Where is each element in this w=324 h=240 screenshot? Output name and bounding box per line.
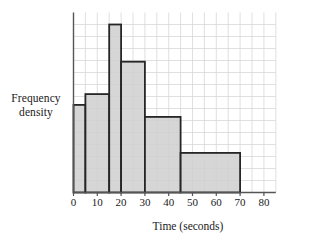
- x-axis-tick-label: 40: [157, 196, 181, 208]
- histogram-bar: [109, 25, 121, 193]
- y-axis-title-line-2: density: [2, 106, 70, 120]
- x-axis-tick-label: 80: [252, 196, 276, 208]
- histogram-bar: [85, 94, 109, 192]
- x-axis-tick-label: 60: [204, 196, 228, 208]
- histogram-bar: [181, 153, 241, 193]
- histogram-bar: [145, 117, 181, 193]
- x-axis-tick-label: 0: [62, 196, 86, 208]
- x-axis-tick-label: 50: [181, 196, 205, 208]
- x-axis-tick-label: 10: [85, 196, 109, 208]
- x-axis-tick-label: 20: [109, 196, 133, 208]
- histogram-bar: [121, 62, 145, 193]
- histogram-bar: [74, 105, 86, 193]
- x-axis-tick-label: 30: [133, 196, 157, 208]
- y-axis-title: Frequency density: [2, 92, 70, 119]
- histogram-figure: Frequency density Time (seconds) 0102030…: [0, 0, 324, 240]
- x-axis-title: Time (seconds): [98, 220, 278, 233]
- y-axis-title-line-1: Frequency: [2, 92, 70, 106]
- x-axis-tick-label: 70: [228, 196, 252, 208]
